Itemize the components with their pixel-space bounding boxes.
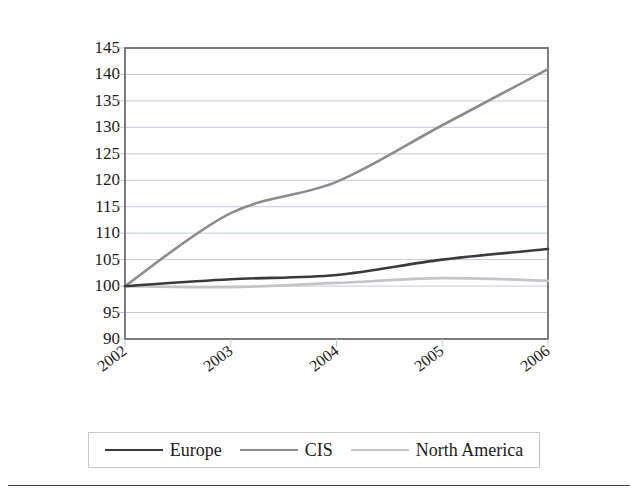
- x-axis-tick-marks: [125, 339, 548, 347]
- legend-line-swatch: [105, 449, 163, 451]
- chart-legend: EuropeCISNorth America: [88, 432, 540, 468]
- legend-item-cis[interactable]: CIS: [231, 440, 342, 461]
- legend-item-north-america[interactable]: North America: [342, 440, 532, 461]
- legend-label: North America: [416, 440, 523, 461]
- plot-border: [125, 48, 548, 339]
- plot-area: [0, 0, 638, 499]
- legend-line-swatch: [351, 449, 409, 451]
- caption-text: [10, 490, 630, 499]
- gridlines: [118, 48, 548, 339]
- legend-line-swatch: [240, 449, 298, 451]
- legend-label: Europe: [170, 440, 222, 461]
- data-series-layer: [125, 69, 548, 287]
- footer-rule: [8, 485, 630, 486]
- series-line-cis: [125, 69, 548, 286]
- chart-figure: Index (2002=100) 14514013513012512011511…: [0, 0, 638, 499]
- legend-item-europe[interactable]: Europe: [96, 440, 231, 461]
- legend-label: CIS: [305, 440, 333, 461]
- series-line-europe: [125, 249, 548, 286]
